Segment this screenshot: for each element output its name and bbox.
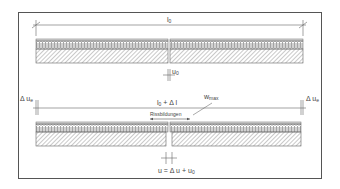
bottom-gap-marker xyxy=(161,152,177,164)
top-length-label: l0 xyxy=(167,16,171,24)
crack-arrows xyxy=(150,118,190,120)
left-delta-label: Δ ue xyxy=(20,95,33,103)
top-slab-right xyxy=(170,39,303,63)
bottom-slab-right xyxy=(170,122,301,146)
crack-formation-label: Rissbildungen xyxy=(150,112,181,117)
right-delta-label: Δ ue xyxy=(306,95,319,103)
top-gap-label: u0 xyxy=(172,68,179,76)
formula-label: u = Δ u + u0 xyxy=(158,167,195,175)
top-slab-left xyxy=(36,39,168,63)
bottom-length-label: l0 + Δ l xyxy=(157,99,177,107)
diagram-drawing xyxy=(0,0,340,189)
wmax-label: wmax xyxy=(204,93,219,101)
bottom-slab-left xyxy=(36,122,168,146)
wmax-leader xyxy=(193,103,212,115)
